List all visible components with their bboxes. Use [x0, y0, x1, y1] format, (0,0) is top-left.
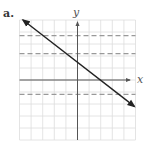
x-axis-label: x: [137, 73, 144, 86]
y-axis-label: y: [72, 6, 80, 19]
graphed-line: [23, 20, 134, 106]
coordinate-plane-figure: a. x y: [0, 0, 153, 149]
panel-label: a.: [3, 7, 14, 20]
